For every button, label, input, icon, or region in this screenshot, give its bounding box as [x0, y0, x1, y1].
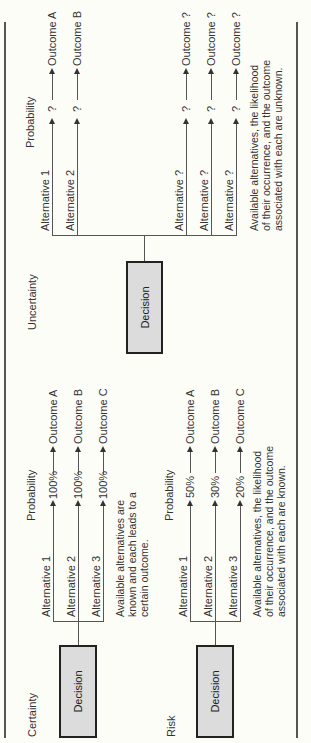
arrow-icon [50, 500, 56, 506]
top-rule [4, 22, 6, 738]
outcome-label: Outcome A [46, 12, 58, 66]
alternative-label: Alternative 1 [39, 170, 51, 231]
outcome-line [103, 450, 104, 475]
alternative-line [52, 122, 53, 236]
arrow-icon [237, 446, 243, 452]
section-title: Certainty [26, 693, 38, 737]
outcome-label: Outcome C [97, 388, 109, 444]
outcome-line [236, 72, 237, 100]
arrow-icon [100, 500, 106, 506]
alternative-label: Alternative 3 [227, 556, 239, 617]
outcome-line [240, 450, 241, 473]
alternative-line [53, 504, 54, 622]
decision-label: Decision [209, 670, 221, 712]
alternative-label: Alternative 2 [202, 556, 214, 617]
alternative-line [240, 504, 241, 622]
arrow-icon [183, 68, 189, 74]
probability-header: Probability [24, 97, 36, 148]
alternative-label: Alternative 1 [40, 556, 52, 617]
alternative-line [236, 122, 237, 236]
outcome-label: Outcome B [72, 389, 84, 444]
alternative-line [211, 122, 212, 236]
outcome-line [211, 72, 212, 100]
alternative-label: Alternative ? [173, 170, 185, 231]
outcome-line [186, 72, 187, 100]
probability-header: Probability [163, 470, 175, 521]
alternative-line [103, 504, 104, 622]
arrow-icon [212, 500, 218, 506]
alternative-line [78, 504, 79, 622]
arrow-icon [212, 446, 218, 452]
decision-box: Decision [196, 645, 234, 738]
decision-stem [78, 622, 79, 645]
probability-value: 100% [72, 471, 84, 499]
probability-value: 20% [234, 476, 246, 498]
outcome-label: Outcome ? [180, 12, 192, 66]
section-description: Available alternatives, the likelihood o… [248, 60, 284, 231]
outcome-label: Outcome B [209, 389, 221, 444]
decision-box: Decision [126, 261, 163, 354]
probability-value: 100% [97, 471, 109, 499]
decision-box: Decision [59, 645, 97, 738]
outcome-label: Outcome A [47, 390, 59, 444]
arrow-icon [233, 118, 239, 124]
probability-value: ? [180, 106, 192, 112]
outcome-line [78, 450, 79, 475]
arrow-icon [237, 500, 243, 506]
arrow-icon [208, 118, 214, 124]
decision-label: Decision [139, 286, 151, 328]
alternative-line [190, 504, 191, 622]
arrow-icon [187, 500, 193, 506]
arrow-icon [49, 68, 55, 74]
arrow-icon [49, 118, 55, 124]
arrow-icon [100, 446, 106, 452]
arrow-icon [75, 500, 81, 506]
probability-value: 50% [184, 476, 196, 498]
section-title: Uncertainty [26, 274, 38, 330]
outcome-line [53, 450, 54, 475]
probability-value: ? [71, 106, 83, 112]
section-title: Risk [165, 716, 177, 737]
section-description: Available alternatives are known and eac… [114, 492, 150, 617]
probability-value: ? [205, 106, 217, 112]
probability-value: 100% [47, 471, 59, 499]
probability-value: ? [230, 106, 242, 112]
arrow-icon [74, 68, 80, 74]
alternative-label: Alternative 3 [90, 556, 102, 617]
outcome-label: Outcome ? [205, 12, 217, 66]
probability-header: Probability [25, 470, 37, 521]
outcome-line [190, 450, 191, 473]
alternative-label: Alternative 2 [65, 556, 77, 617]
outcome-label: Outcome ? [230, 12, 242, 66]
decision-conditions-diagram: Certainty Probability Decision Alternati… [0, 0, 311, 743]
outcome-label: Outcome B [71, 11, 83, 66]
arrow-icon [183, 118, 189, 124]
alternative-line [215, 504, 216, 622]
probability-value: 30% [209, 476, 221, 498]
branch-bracket [52, 235, 236, 236]
alternative-label: Alternative 1 [177, 556, 189, 617]
arrow-icon [74, 118, 80, 124]
bottom-rule [296, 22, 298, 738]
alternative-label: Alternative ? [198, 170, 210, 231]
decision-stem [215, 622, 216, 645]
alternative-line [77, 122, 78, 236]
outcome-label: Outcome C [234, 388, 246, 444]
alternative-label: Alternative 2 [64, 170, 76, 231]
arrow-icon [75, 446, 81, 452]
arrow-icon [50, 446, 56, 452]
arrow-icon [187, 446, 193, 452]
decision-stem [144, 236, 145, 261]
alternative-line [186, 122, 187, 236]
outcome-label: Outcome A [184, 390, 196, 444]
outcome-line [215, 450, 216, 473]
outcome-line [77, 72, 78, 100]
outcome-line [52, 72, 53, 100]
section-description: Available alternatives, the likelihood o… [251, 446, 287, 617]
probability-value: ? [46, 106, 58, 112]
arrow-icon [208, 68, 214, 74]
alternative-label: Alternative ? [223, 170, 235, 231]
decision-label: Decision [72, 670, 84, 712]
arrow-icon [233, 68, 239, 74]
